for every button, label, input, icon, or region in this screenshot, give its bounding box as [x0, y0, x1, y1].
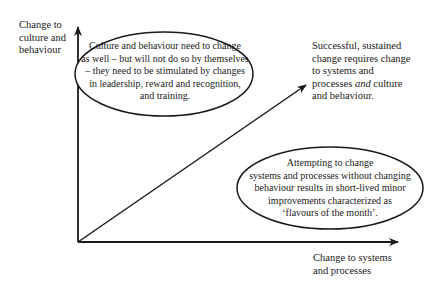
diagonal-note: Successful, sustained change requires ch… [312, 40, 430, 103]
note-text: culture [371, 78, 403, 89]
callout-line: systems and processes without changing [242, 170, 418, 183]
y-axis-label-line: Change to [19, 19, 79, 32]
top-ellipse-text: Culture and behaviour need to change as … [84, 40, 246, 103]
note-line: change requires change [312, 53, 430, 66]
callout-line: behaviour results in short-lived minor [242, 182, 418, 195]
callout-line: Culture and behaviour need to change [84, 40, 246, 53]
note-line: processes and culture [312, 78, 430, 91]
callout-line: and training. [84, 90, 246, 103]
note-line: to systems and [312, 65, 430, 78]
callout-line: in leadership, reward and recognition, [84, 78, 246, 91]
note-line: Successful, sustained [312, 40, 430, 53]
y-axis-label-line: behaviour [19, 44, 79, 57]
callout-line: improvements characterized as [242, 195, 418, 208]
callout-line: Attempting to change [242, 157, 418, 170]
callout-line: as well – but will not do so by themselv… [80, 53, 250, 66]
note-line: and behaviour. [312, 90, 430, 103]
x-axis-label-line: Change to systems [313, 252, 430, 265]
bottom-ellipse-text: Attempting to change systems and process… [242, 157, 418, 220]
callout-line: ‘flavours of the month’. [242, 207, 418, 220]
callout-line: – they need to be stimulated by changes [84, 65, 246, 78]
note-text: processes [312, 78, 355, 89]
y-axis-label-line: culture and [19, 32, 79, 45]
x-axis-label: Change to systems and processes [313, 252, 430, 277]
note-emphasis: and [355, 78, 371, 89]
y-axis-label: Change to culture and behaviour [19, 19, 79, 57]
x-axis-label-line: and processes [313, 265, 430, 278]
